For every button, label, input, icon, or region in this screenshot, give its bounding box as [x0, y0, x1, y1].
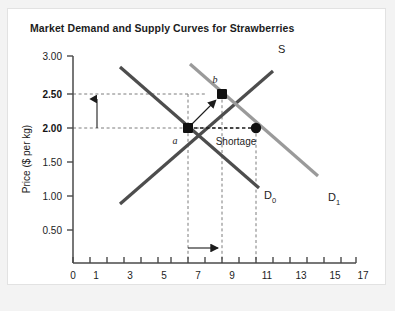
point-label-b: b — [213, 74, 218, 85]
x-tick-label-13: 13 — [295, 270, 307, 281]
curve-label-d0-subscript: 0 — [272, 196, 276, 205]
figure-card: Market Demand and Supply Curves for Stra… — [7, 8, 386, 285]
point-label-a: a — [173, 135, 178, 146]
x-tick-label-3: 3 — [127, 270, 133, 281]
y-axis-title: Price ($ per kg) — [21, 125, 32, 193]
guide-lines — [73, 94, 256, 263]
x-tick-label-5: 5 — [161, 270, 167, 281]
screenshot-background: Market Demand and Supply Curves for Stra… — [0, 0, 395, 311]
x-tick-label-11: 11 — [262, 270, 273, 281]
shortage-label: Shortage — [216, 136, 257, 147]
demand-curve-d1 — [190, 64, 318, 176]
y-tick-label-2-50: 2.50 — [43, 89, 63, 100]
chart-plot: a b Shortage S D 0 D 1 — [8, 9, 387, 286]
point-a-marker — [183, 123, 193, 133]
curve-label-d0-text: D — [264, 189, 272, 201]
x-tick-label-17: 17 — [357, 270, 369, 281]
y-tick-label-0-50: 0.50 — [43, 225, 63, 236]
x-tick-label-0: 0 — [70, 270, 76, 281]
curve-label-d0: D 0 — [264, 189, 276, 205]
y-tick-label-1-00: 1.00 — [43, 191, 63, 202]
x-tick-label-1: 1 — [93, 270, 99, 281]
y-tick-label-2-00: 2.00 — [43, 123, 63, 134]
point-b-marker — [217, 89, 227, 99]
x-tick-label-7: 7 — [195, 270, 201, 281]
y-tick-label-3-00: 3.00 — [43, 51, 63, 62]
y-axis-ticks — [67, 56, 73, 230]
curve-label-d1-subscript: 1 — [336, 198, 340, 207]
curve-label-d1: D 1 — [328, 191, 340, 207]
x-axis-ticks — [73, 257, 356, 263]
x-tick-label-15: 15 — [329, 270, 341, 281]
x-axis-title: Quantity (millions of kg per year) — [136, 285, 280, 286]
curve-label-s: S — [278, 43, 285, 55]
point-c-marker — [251, 123, 261, 133]
y-tick-label-1-50: 1.50 — [43, 157, 63, 168]
x-tick-label-9: 9 — [229, 270, 235, 281]
curves — [120, 64, 318, 204]
curve-label-s-text: S — [278, 43, 285, 55]
curve-label-d1-text: D — [328, 191, 336, 203]
